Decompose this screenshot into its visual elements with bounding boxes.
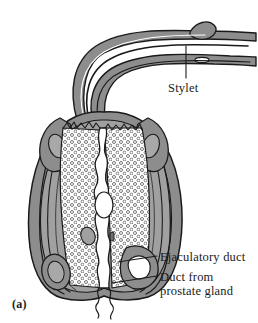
label-prostate-duct-line1: Duct from [160,270,214,284]
panel-label: (a) [12,297,27,311]
label-stylet: Stylet [168,81,198,95]
label-prostate-duct: Duct from prostate gland [160,270,233,298]
stylet-tube [73,22,256,126]
label-ejaculatory-duct: Ejaculatory duct [160,250,245,264]
figure-panel: Stylet Ejaculatory duct Duct from prosta… [0,0,258,323]
label-prostate-duct-line2: prostate gland [160,284,233,298]
